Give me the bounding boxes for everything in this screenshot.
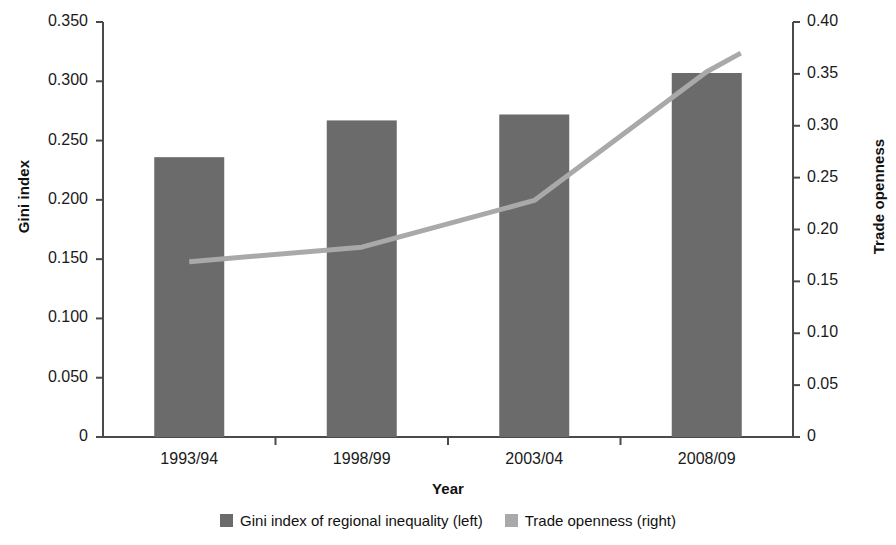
bar-2003-04 <box>499 114 569 437</box>
chart-figure: Gini index Trade openness Year 00.0500.1… <box>0 0 896 545</box>
legend-label: Trade openness (right) <box>525 512 676 529</box>
bar-1993-94 <box>154 157 224 437</box>
plot-area <box>0 0 896 545</box>
legend-swatch-icon <box>505 514 518 527</box>
trade-openness-line <box>189 53 741 262</box>
legend-item: Trade openness (right) <box>505 512 676 529</box>
legend-swatch-icon <box>220 514 233 527</box>
bar-1998-99 <box>327 120 397 437</box>
legend-item: Gini index of regional inequality (left) <box>220 512 483 529</box>
legend-label: Gini index of regional inequality (left) <box>240 512 483 529</box>
bar-2008-09 <box>672 73 742 437</box>
chart-legend: Gini index of regional inequality (left)… <box>0 512 896 529</box>
